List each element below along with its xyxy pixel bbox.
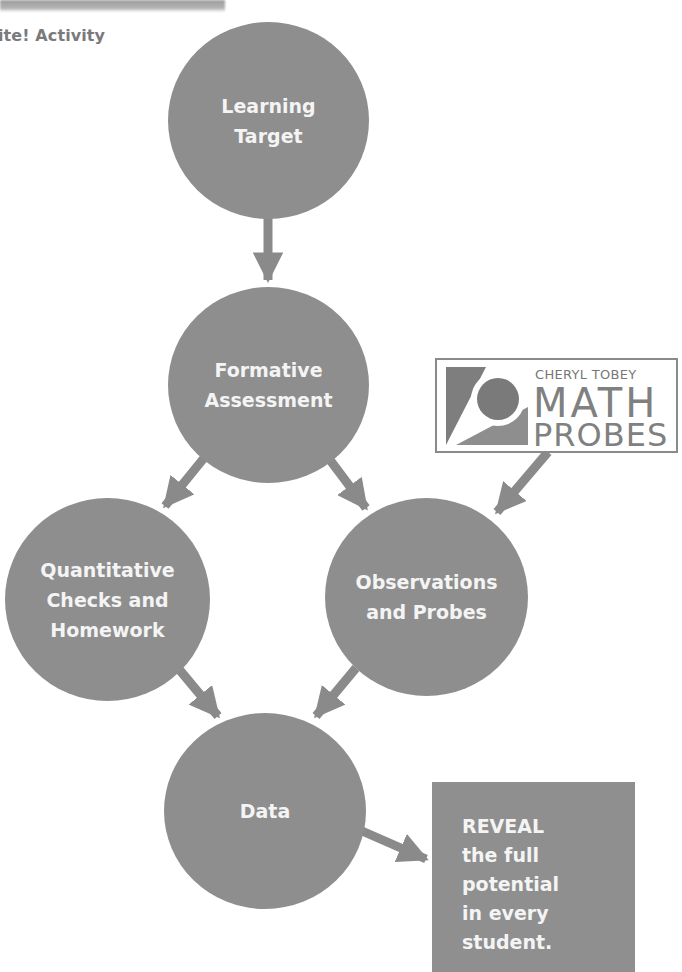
arrow-data-to-reveal (362, 831, 426, 859)
math-probes-logo: CHERYL TOBEY MATH PROBES (435, 358, 678, 453)
node-label: Formative Assessment (204, 355, 332, 415)
arrow-formative-to-quantitative (165, 458, 204, 506)
node-learning-target: Learning Target (168, 22, 369, 219)
node-quantitative-checks: Quantitative Checks and Homework (5, 498, 210, 701)
node-data: Data (164, 713, 366, 909)
node-label: Data (240, 796, 291, 826)
logo-probes: PROBES (533, 416, 668, 454)
node-observations-probes: Observations and Probes (325, 498, 528, 696)
arrow-logo-to-observations (497, 452, 548, 512)
node-label: Quantitative Checks and Homework (40, 555, 174, 645)
magnifying-glass-icon (446, 367, 528, 445)
node-formative-assessment: Formative Assessment (168, 287, 369, 483)
arrow-formative-to-observations (330, 460, 366, 508)
arrow-observations-to-data (316, 668, 356, 716)
reveal-callout: REVEAL the full potential in every stude… (432, 782, 635, 972)
node-label: Learning Target (221, 91, 315, 151)
arrow-quantitative-to-data (178, 668, 218, 716)
node-label: Observations and Probes (355, 567, 497, 627)
reveal-text: REVEAL the full potential in every stude… (462, 812, 559, 957)
